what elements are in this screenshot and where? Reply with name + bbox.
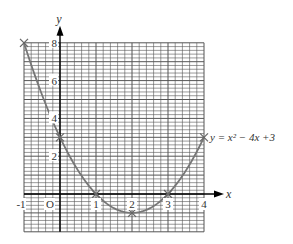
x-tick-label: 3 [165,198,171,210]
x-tick-label: 4 [201,198,207,210]
x-axis-label: x [225,187,232,201]
origin-label: O [46,198,54,210]
quadratic-graph: 2468-11234Oxyy = x² − 4x +3 [0,0,293,244]
y-axis-label: y [55,12,62,26]
x-tick-label: 2 [129,198,135,210]
y-axis-arrow-icon [57,26,64,36]
curve [24,43,204,213]
y-tick-label: 6 [52,75,58,87]
y-tick-label: 8 [52,37,58,49]
x-axis-arrow-icon [214,191,224,198]
y-tick-label: 2 [52,150,58,162]
equation-label: y = x² − 4x +3 [209,131,275,143]
x-tick-label: 1 [93,198,99,210]
parabola-curve [24,43,204,213]
y-tick-label: 4 [52,112,58,124]
x-tick-label: -1 [16,198,25,210]
